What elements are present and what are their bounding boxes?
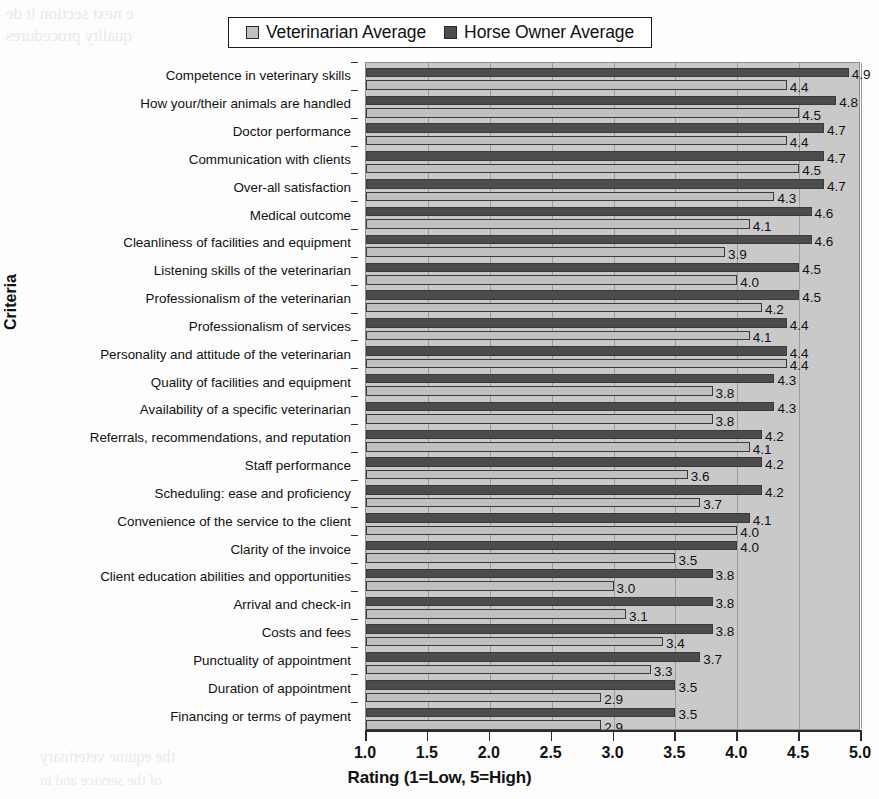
bar-group: 4.33.8 — [366, 369, 859, 397]
x-axis-tick-label: 1.5 — [416, 744, 438, 762]
bar-group: 3.83.4 — [366, 620, 859, 648]
bar-value-label: 4.6 — [815, 235, 834, 249]
bar-group: 3.83.0 — [366, 564, 859, 592]
bar-group: 4.03.5 — [366, 536, 859, 564]
category-label: Convenience of the service to the client — [117, 515, 351, 528]
category-label: Professionalism of services — [189, 320, 351, 333]
x-axis-tick-label: 2.0 — [478, 744, 500, 762]
category-tick — [351, 285, 358, 286]
bar-rows: 4.94.44.84.54.74.44.74.54.74.34.64.14.63… — [366, 63, 859, 729]
bar-veterinarian — [366, 470, 688, 480]
bar-value-label: 4.3 — [777, 374, 796, 388]
category-tick — [351, 368, 358, 369]
category-tick — [351, 591, 358, 592]
x-axis-tick-label: 5.0 — [849, 744, 871, 762]
bar-veterinarian — [366, 609, 626, 619]
category-label: Professionalism of the veterinarian — [146, 292, 351, 305]
legend-label: Horse Owner Average — [464, 22, 634, 43]
bar-horse-owner — [366, 597, 713, 607]
x-axis-tick-label: 3.0 — [601, 744, 623, 762]
category-label: Competence in veterinary skills — [166, 69, 351, 82]
bar-value-label: 4.3 — [777, 402, 796, 416]
bar-value-label: 3.8 — [716, 625, 735, 639]
bar-veterinarian — [366, 275, 737, 285]
category-label: How your/their animals are handled — [140, 97, 351, 110]
category-labels: Competence in veterinary skillsHow your/… — [0, 62, 358, 730]
x-axis-tick-label: 4.0 — [725, 744, 747, 762]
bar-group: 4.23.7 — [366, 481, 859, 509]
plot-area: 4.94.44.84.54.74.44.74.54.74.34.64.14.63… — [365, 62, 860, 730]
bar-veterinarian — [366, 386, 713, 396]
bar-horse-owner — [366, 68, 849, 78]
bar-veterinarian — [366, 108, 799, 118]
category-label: Referrals, recommendations, and reputati… — [90, 431, 351, 444]
bar-veterinarian — [366, 665, 651, 675]
bar-horse-owner — [366, 374, 774, 384]
bar-group: 4.44.1 — [366, 314, 859, 342]
bar-veterinarian — [366, 136, 787, 146]
bar-horse-owner — [366, 318, 787, 328]
bar-veterinarian — [366, 414, 713, 424]
category-label: Staff performance — [245, 459, 351, 472]
bar-veterinarian — [366, 359, 787, 369]
bar-group: 4.54.2 — [366, 286, 859, 314]
bar-group: 3.52.9 — [366, 703, 859, 731]
category-label: Duration of appointment — [208, 682, 351, 695]
bar-horse-owner — [366, 680, 675, 690]
bar-group: 4.14.0 — [366, 508, 859, 536]
category-tick — [351, 201, 358, 202]
legend-label: Veterinarian Average — [266, 22, 426, 43]
scan-artifact-top-1: e next section it de — [6, 4, 133, 24]
category-tick — [351, 535, 358, 536]
bar-veterinarian — [366, 164, 799, 174]
bar-group: 4.74.3 — [366, 174, 859, 202]
bar-horse-owner — [366, 485, 762, 495]
category-label: Personality and attitude of the veterina… — [100, 348, 351, 361]
category-label: Medical outcome — [250, 209, 351, 222]
x-axis-tick — [674, 730, 676, 741]
bar-veterinarian — [366, 581, 614, 591]
bar-horse-owner — [366, 123, 824, 133]
category-tick — [351, 90, 358, 91]
x-axis-tick-label: 2.5 — [540, 744, 562, 762]
category-tick — [351, 257, 358, 258]
bar-horse-owner — [366, 179, 824, 189]
bar-group: 4.74.5 — [366, 147, 859, 175]
category-label: Availability of a specific veterinarian — [140, 403, 351, 416]
bar-veterinarian — [366, 553, 675, 563]
bar-veterinarian — [366, 720, 601, 730]
category-label: Cleanliness of facilities and equipment — [123, 236, 351, 249]
category-tick — [351, 702, 358, 703]
bar-value-label: 4.7 — [827, 180, 846, 194]
bar-group: 4.74.4 — [366, 119, 859, 147]
category-label: Client education abilities and opportuni… — [100, 570, 351, 583]
bar-value-label: 4.5 — [802, 291, 821, 305]
x-axis-tick — [736, 730, 738, 741]
category-label: Scheduling: ease and proficiency — [154, 487, 351, 500]
bar-veterinarian — [366, 498, 700, 508]
bar-horse-owner — [366, 96, 836, 106]
x-axis-tick-label: 3.5 — [663, 744, 685, 762]
bar-veterinarian — [366, 331, 750, 341]
bar-value-label: 4.7 — [827, 152, 846, 166]
bar-group: 4.54.0 — [366, 258, 859, 286]
category-tick — [351, 62, 358, 63]
bar-horse-owner — [366, 207, 812, 217]
bar-horse-owner — [366, 652, 700, 662]
bar-veterinarian — [366, 247, 725, 257]
category-tick — [351, 396, 358, 397]
category-label: Quality of facilities and equipment — [151, 376, 351, 389]
bar-value-label: 4.9 — [852, 68, 871, 82]
bar-veterinarian — [366, 219, 750, 229]
category-tick — [351, 507, 358, 508]
bar-veterinarian — [366, 80, 787, 90]
bar-value-label: 4.8 — [839, 96, 858, 110]
bar-value-label: 3.5 — [678, 708, 697, 722]
bar-group: 3.83.1 — [366, 592, 859, 620]
bar-group: 4.44.4 — [366, 341, 859, 369]
bar-value-label: 4.4 — [790, 319, 809, 333]
x-axis: 1.01.52.02.53.03.54.04.55.0 — [365, 730, 860, 732]
legend-swatch-icon — [444, 26, 457, 39]
legend-swatch-icon — [246, 26, 259, 39]
bar-group: 3.73.3 — [366, 648, 859, 676]
